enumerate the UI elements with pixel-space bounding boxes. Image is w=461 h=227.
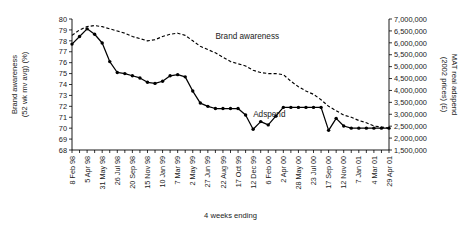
x-axis-ticks: 8 Feb 985 Apr 9831 May 9826 Jul 9820 Sep… bbox=[68, 150, 394, 190]
series-marker-adspend bbox=[357, 126, 360, 129]
series-marker-adspend bbox=[244, 113, 247, 116]
series-annotations: Brand awarenessAdspend bbox=[215, 32, 286, 120]
chart-container: 68697071727374757677787980 1,500,0002,00… bbox=[0, 0, 461, 227]
series-marker-adspend bbox=[70, 42, 73, 45]
x-tick-label: 7 Jan 01 bbox=[354, 156, 363, 184]
series-line-brand-awareness bbox=[72, 26, 389, 129]
x-tick-label: 28 May 00 bbox=[294, 156, 303, 190]
series-marker-adspend bbox=[312, 106, 315, 109]
series-marker-adspend bbox=[304, 106, 307, 109]
y-tick-label-left: 80 bbox=[59, 15, 67, 24]
series-marker-adspend bbox=[380, 126, 383, 129]
series-marker-adspend bbox=[78, 35, 81, 38]
series-marker-adspend bbox=[100, 41, 103, 44]
y-tick-label-left: 69 bbox=[59, 135, 67, 144]
x-tick-label: 17 Sep 00 bbox=[324, 156, 333, 189]
x-tick-label: 7 Mar 99 bbox=[173, 156, 182, 184]
y-tick-label-right: 7,000,000 bbox=[394, 15, 427, 24]
series-marker-adspend bbox=[153, 82, 156, 85]
series-marker-adspend bbox=[85, 27, 88, 30]
y-tick-label-left: 79 bbox=[59, 26, 67, 35]
series-marker-adspend bbox=[108, 60, 111, 63]
series-marker-adspend bbox=[131, 74, 134, 77]
y-tick-label-left: 76 bbox=[59, 58, 67, 67]
y-axis-title-right-line2: (2002 prices) (£) bbox=[440, 57, 449, 113]
y-tick-label-right: 1,500,000 bbox=[394, 146, 427, 155]
series-marker-adspend bbox=[221, 107, 224, 110]
series-layer bbox=[70, 26, 390, 133]
series-marker-adspend bbox=[123, 72, 126, 75]
x-tick-label: 17 Oct 99 bbox=[234, 156, 243, 187]
x-tick-label: 29 Apr 01 bbox=[385, 156, 394, 187]
series-marker-adspend bbox=[297, 106, 300, 109]
series-marker-adspend bbox=[176, 73, 179, 76]
dual-axis-line-chart: 68697071727374757677787980 1,500,0002,00… bbox=[0, 0, 461, 227]
series-annotation-adspend: Adspend bbox=[253, 110, 286, 119]
series-marker-adspend bbox=[259, 120, 262, 123]
y-tick-label-left: 71 bbox=[59, 113, 67, 122]
series-marker-adspend bbox=[236, 107, 239, 110]
x-tick-label: 31 May 98 bbox=[98, 156, 107, 190]
x-tick-label: 23 Jul 00 bbox=[309, 156, 318, 185]
y-tick-label-left: 78 bbox=[59, 37, 67, 46]
series-marker-adspend bbox=[372, 126, 375, 129]
y-tick-label-right: 6,000,000 bbox=[394, 39, 427, 48]
x-tick-label: 26 Jul 98 bbox=[113, 156, 122, 185]
series-marker-adspend bbox=[191, 89, 194, 92]
x-tick-label: 6 Feb 00 bbox=[264, 156, 273, 184]
series-marker-adspend bbox=[282, 106, 285, 109]
x-tick-label: 2 Apr 00 bbox=[279, 156, 288, 183]
series-marker-adspend bbox=[168, 74, 171, 77]
series-marker-adspend bbox=[387, 126, 390, 129]
y-axis-left-ticks: 68697071727374757677787980 bbox=[59, 15, 72, 155]
series-marker-adspend bbox=[342, 124, 345, 127]
x-tick-label: 15 Nov 98 bbox=[143, 156, 152, 189]
plot-area: 68697071727374757677787980 1,500,0002,00… bbox=[10, 15, 459, 220]
y-tick-label-left: 73 bbox=[59, 91, 67, 100]
series-marker-adspend bbox=[365, 126, 368, 129]
y-axis-right-ticks: 1,500,0002,000,0002,500,0003,000,0003,50… bbox=[389, 15, 427, 155]
y-tick-label-right: 3,500,000 bbox=[394, 98, 427, 107]
series-marker-adspend bbox=[267, 123, 270, 126]
series-marker-adspend bbox=[251, 128, 254, 131]
y-axis-title-right-line1: MAT real adspend bbox=[450, 54, 459, 115]
y-tick-label-right: 6,500,000 bbox=[394, 27, 427, 36]
x-tick-label: 22 Aug 99 bbox=[219, 156, 228, 188]
y-axis-title-left-line2: (52 wk mv avg) (%) bbox=[20, 51, 29, 117]
y-tick-label-left: 77 bbox=[59, 47, 67, 56]
x-tick-label: 4 Mar 01 bbox=[370, 156, 379, 184]
y-tick-label-right: 2,500,000 bbox=[394, 122, 427, 131]
y-tick-label-right: 4,000,000 bbox=[394, 86, 427, 95]
series-marker-adspend bbox=[289, 106, 292, 109]
series-marker-adspend bbox=[138, 76, 141, 79]
y-tick-label-right: 5,500,000 bbox=[394, 50, 427, 59]
x-tick-label: 2 May 99 bbox=[188, 156, 197, 186]
x-tick-label: 12 Nov 00 bbox=[339, 156, 348, 189]
series-marker-adspend bbox=[161, 80, 164, 83]
series-marker-adspend bbox=[334, 117, 337, 120]
x-tick-label: 5 Apr 98 bbox=[83, 156, 92, 183]
x-tick-label: 20 Sep 98 bbox=[128, 156, 137, 189]
series-marker-adspend bbox=[350, 126, 353, 129]
y-tick-label-left: 75 bbox=[59, 69, 67, 78]
y-tick-label-right: 2,000,000 bbox=[394, 134, 427, 143]
series-annotation-brand-awareness: Brand awareness bbox=[215, 32, 279, 41]
series-marker-adspend bbox=[319, 106, 322, 109]
x-tick-label: 8 Feb 98 bbox=[68, 156, 77, 184]
y-tick-label-right: 5,000,000 bbox=[394, 62, 427, 71]
y-tick-label-right: 3,000,000 bbox=[394, 110, 427, 119]
y-tick-label-left: 68 bbox=[59, 146, 67, 155]
axis-titles: 4 weeks endingBrand awareness(52 wk mv a… bbox=[10, 51, 459, 220]
series-marker-adspend bbox=[229, 107, 232, 110]
series-marker-adspend bbox=[146, 81, 149, 84]
series-line-adspend bbox=[72, 29, 389, 131]
x-tick-label: 27 Jun 99 bbox=[203, 156, 212, 188]
series-marker-adspend bbox=[116, 71, 119, 74]
series-marker-adspend bbox=[93, 33, 96, 36]
y-axis-title-left-line1: Brand awareness bbox=[10, 55, 19, 114]
series-marker-adspend bbox=[199, 101, 202, 104]
x-tick-label: 10 Jan 99 bbox=[158, 156, 167, 188]
series-marker-adspend bbox=[184, 75, 187, 78]
x-tick-label: 12 Dec 99 bbox=[249, 156, 258, 189]
y-tick-label-left: 72 bbox=[59, 102, 67, 111]
